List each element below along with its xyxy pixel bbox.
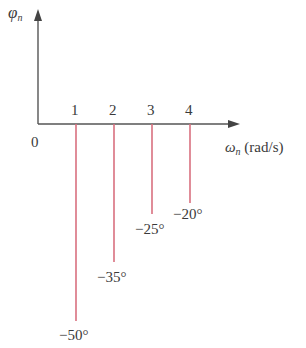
phi-symbol: φ — [8, 3, 17, 22]
value-label-1: −50° — [59, 328, 88, 343]
value-label-4: −20° — [173, 207, 202, 222]
y-axis-arrow-icon — [34, 9, 42, 21]
y-axis-label: φn — [8, 4, 22, 23]
value-label-2: −35° — [97, 270, 126, 285]
tick-label-4: 4 — [185, 103, 193, 118]
value-label-3: −25° — [135, 222, 164, 237]
phi-subscript: n — [17, 12, 22, 23]
omega-symbol: ω — [225, 139, 236, 155]
origin-label: 0 — [31, 135, 39, 150]
tick-label-2: 2 — [109, 103, 117, 118]
x-axis-unit: (rad/s) — [241, 139, 284, 155]
phase-spectrum-plot — [0, 0, 306, 348]
tick-label-3: 3 — [147, 103, 155, 118]
x-axis-label: ωn (rad/s) — [225, 140, 284, 157]
x-axis-arrow-icon — [228, 120, 240, 128]
tick-label-1: 1 — [71, 103, 79, 118]
